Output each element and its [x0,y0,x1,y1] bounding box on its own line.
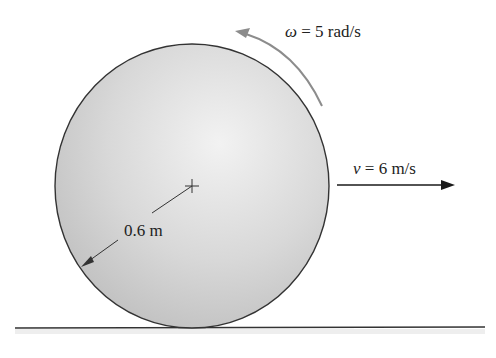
linear-velocity-arrow [337,180,455,190]
arrowhead-icon [235,28,250,38]
radius-label: 0.6 m [124,221,163,240]
angular-velocity-label: ω = 5 rad/s [285,22,361,41]
arrowhead-icon [441,180,455,190]
rolling-disk-diagram: 0.6 m ω = 5 rad/s v = 6 m/s [0,0,496,358]
ground-shadow [15,329,485,334]
linear-velocity-label: v = 6 m/s [353,159,416,178]
ground-line [15,327,485,328]
